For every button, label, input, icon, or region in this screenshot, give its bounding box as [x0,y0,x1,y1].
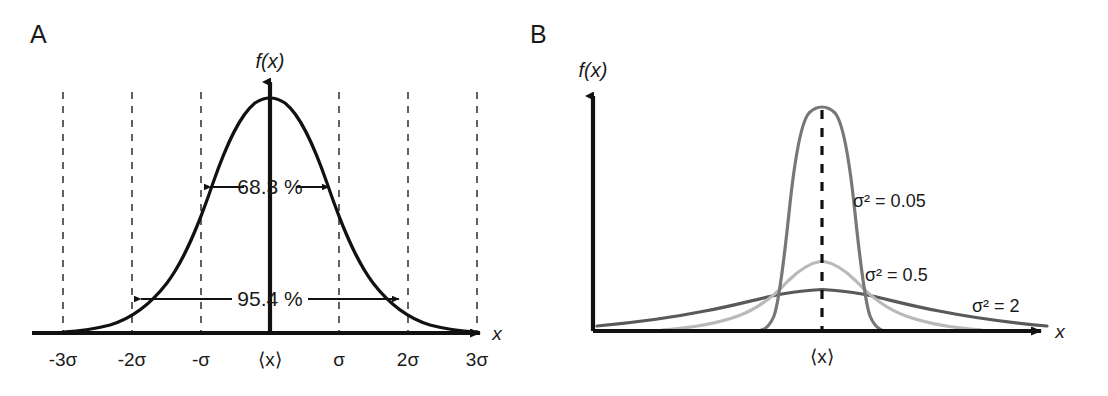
panel-b-x-axis-label: x [1054,321,1066,342]
panel-a-x-axis-label: x [491,323,503,344]
panel-a: A [0,0,520,396]
x-tick-label-mean: ⟨x⟩ [258,349,282,370]
two-sigma-percent-label: 95.4 % [237,287,302,310]
panel-b-y-axis-label: f(x) [579,59,608,81]
x-tick-label-minus-3-sigma: -3σ [49,349,78,370]
x-tick-label-plus-3-sigma: 3σ [466,349,489,370]
x-tick-label-plus-1-sigma: σ [333,349,345,370]
label-variance-0-05: σ² = 0.05 [853,191,926,211]
normal-distribution-figure: A [0,0,1108,396]
label-variance-0-5: σ² = 0.5 [865,265,928,285]
panel-b-plot: f(x) x ⟨x⟩ σ² = 0.05 σ² = 0.5 σ² = 2 [520,0,1108,396]
x-tick-label-minus-2-sigma: -2σ [118,349,147,370]
panel-a-y-axis-label: f(x) [256,50,285,72]
one-sigma-percent-label: 68.3 % [237,175,302,198]
label-variance-2: σ² = 2 [972,296,1020,316]
x-tick-label-plus-2-sigma: 2σ [397,349,420,370]
x-tick-label-mean: ⟨x⟩ [810,346,834,367]
panel-a-plot: 68.3 % 95.4 % f(x) x -3σ -2σ -σ ⟨x⟩ σ 2σ… [0,0,520,396]
panel-b: B f(x) [520,0,1108,396]
x-tick-label-minus-1-sigma: -σ [192,349,210,370]
